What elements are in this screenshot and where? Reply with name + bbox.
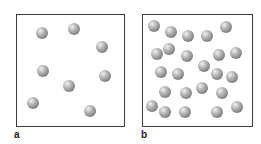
particle-sphere-icon [37, 65, 49, 77]
particle-sphere-icon [96, 41, 108, 53]
particle-sphere-icon [165, 26, 177, 38]
particle-sphere-icon [211, 106, 223, 118]
panel-b-label: b [141, 130, 147, 140]
particle-sphere-icon [179, 106, 191, 118]
particle-sphere-icon [148, 20, 160, 32]
particle-sphere-icon [182, 30, 194, 42]
particle-sphere-icon [84, 105, 96, 117]
particle-sphere-icon [196, 82, 208, 94]
particle-sphere-icon [198, 60, 210, 72]
particle-sphere-icon [231, 101, 243, 113]
particle-sphere-icon [230, 47, 242, 59]
particle-sphere-icon [213, 49, 225, 61]
particle-sphere-icon [27, 97, 39, 109]
particle-sphere-icon [181, 50, 193, 62]
particle-sphere-icon [159, 106, 171, 118]
particle-sphere-icon [220, 21, 232, 33]
particle-sphere-icon [68, 23, 80, 35]
panel-a-label: a [14, 130, 20, 140]
particle-sphere-icon [155, 66, 167, 78]
particle-sphere-icon [146, 100, 158, 112]
particle-sphere-icon [226, 71, 238, 83]
particle-sphere-icon [151, 48, 163, 60]
particle-sphere-icon [36, 27, 48, 39]
particle-sphere-icon [63, 80, 75, 92]
particle-sphere-icon [172, 68, 184, 80]
particle-sphere-icon [211, 68, 223, 80]
particle-sphere-icon [216, 87, 228, 99]
particle-sphere-icon [163, 43, 175, 55]
particle-sphere-icon [99, 70, 111, 82]
particle-sphere-icon [159, 86, 171, 98]
particle-sphere-icon [201, 30, 213, 42]
particle-sphere-icon [180, 87, 192, 99]
